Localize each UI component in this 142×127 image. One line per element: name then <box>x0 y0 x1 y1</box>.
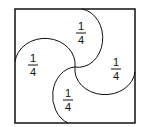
arc-bottom <box>53 67 75 123</box>
numerator: 1 <box>30 52 36 64</box>
numerator: 1 <box>65 87 71 99</box>
label-left: 1 4 <box>28 52 38 78</box>
denominator: 4 <box>113 70 119 82</box>
arc-left <box>15 38 75 67</box>
pinwheel-diagram: 1 4 1 4 1 4 1 4 <box>0 0 142 127</box>
denominator: 4 <box>78 34 84 46</box>
denominator: 4 <box>30 66 36 78</box>
label-bottom: 1 4 <box>63 87 73 113</box>
numerator: 1 <box>113 56 119 68</box>
numerator: 1 <box>78 20 84 32</box>
label-right: 1 4 <box>111 56 121 82</box>
arc-right <box>75 67 135 95</box>
denominator: 4 <box>65 101 71 113</box>
label-top: 1 4 <box>76 20 86 46</box>
